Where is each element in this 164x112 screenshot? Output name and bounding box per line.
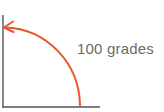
angle-label: 100 grades xyxy=(77,40,154,57)
angle-arc xyxy=(5,28,80,107)
